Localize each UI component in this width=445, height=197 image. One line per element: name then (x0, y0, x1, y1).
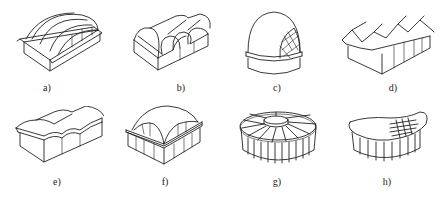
panel-h-saddle-cable-net-roof (346, 110, 430, 166)
panel-c-label: c) (262, 82, 292, 93)
panel-b-label: b) (166, 82, 196, 93)
panel-d-folded-plate-roof (342, 14, 436, 76)
panel-g-radial-cable-roof (238, 110, 322, 166)
panel-a-barrel-shell-roof (12, 5, 102, 73)
panel-f-label: f) (150, 176, 180, 187)
panel-c-lattice-dome (244, 8, 308, 78)
panel-e-label: e) (42, 176, 72, 187)
panel-h-label: h) (372, 176, 402, 187)
panel-a-label: a) (32, 82, 62, 93)
panel-b-multiple-vaults (128, 12, 213, 72)
panel-f-square-dome-shell (124, 102, 204, 168)
panel-d-label: d) (378, 82, 408, 93)
panel-g-label: g) (262, 176, 292, 187)
panel-e-wave-shell-roof (14, 106, 104, 164)
